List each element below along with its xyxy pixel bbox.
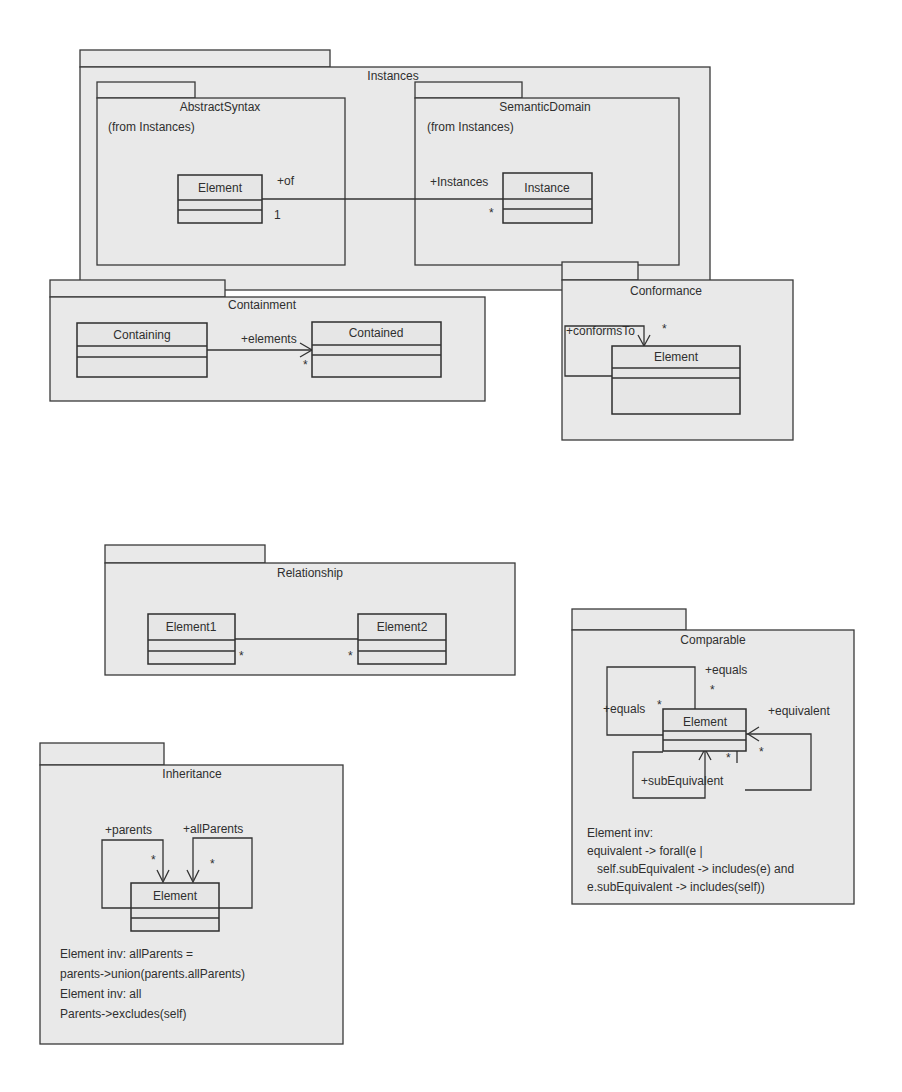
role-label: +allParents (183, 822, 243, 836)
multiplicity-label: * (348, 649, 353, 663)
class-name: Element (153, 889, 198, 903)
class-containing[interactable]: Containing (77, 323, 207, 377)
package-comparable[interactable]: Comparable +equals * +equals * +equivale… (572, 609, 854, 904)
class-name: Containing (113, 328, 170, 342)
role-label: +equivalent (768, 704, 830, 718)
package-title: Containment (228, 298, 297, 312)
class-name: Element (683, 715, 728, 729)
constraint-line: equivalent -> forall(e | (587, 844, 703, 858)
class-instance[interactable]: Instance (503, 173, 592, 223)
constraint-line: self.subEquivalent -> includes(e) and (587, 862, 794, 876)
multiplicity-label: * (489, 206, 494, 220)
package-tab (562, 262, 638, 280)
multiplicity-label: * (151, 853, 156, 867)
package-relationship[interactable]: Relationship Element1 * Element2 * (105, 545, 515, 675)
multiplicity-label: * (759, 745, 764, 759)
package-tab (572, 609, 686, 630)
package-tab (80, 50, 330, 67)
multiplicity-label: * (657, 698, 662, 712)
class-element[interactable]: Element (663, 709, 746, 751)
role-label: +elements (241, 332, 297, 346)
class-name: Element1 (166, 620, 217, 634)
package-title: Inheritance (162, 767, 222, 781)
class-element[interactable]: Element (178, 175, 262, 223)
package-tab (415, 82, 522, 98)
package-instances[interactable]: Instances AbstractSyntax (from Instances… (80, 50, 710, 290)
package-title: Comparable (680, 633, 746, 647)
class-name: Contained (349, 326, 404, 340)
package-title: AbstractSyntax (180, 100, 261, 114)
class-element[interactable]: Element (131, 883, 219, 931)
package-title: Conformance (630, 284, 702, 298)
multiplicity-label: * (210, 857, 215, 871)
multiplicity-label: * (726, 751, 731, 765)
role-label: +of (277, 174, 295, 188)
role-label: +conformsTo (566, 324, 635, 338)
package-inheritance[interactable]: Inheritance +parents * +allParents * Ele… (40, 743, 343, 1044)
package-title: SemanticDomain (499, 100, 590, 114)
role-label: +equals (705, 663, 747, 677)
class-name: Element (654, 350, 699, 364)
role-label: +subEquivalent (641, 774, 724, 788)
package-abstract-syntax[interactable]: AbstractSyntax (from Instances) (97, 82, 345, 265)
package-origin: (from Instances) (427, 120, 514, 134)
package-tab (105, 545, 265, 563)
constraint-line: Element inv: allParents = (60, 947, 193, 961)
class-element[interactable]: Element (612, 346, 740, 414)
constraint-line: Element inv: (587, 826, 653, 840)
class-contained[interactable]: Contained (312, 322, 441, 377)
multiplicity-label: * (303, 358, 308, 372)
package-title: Instances (367, 69, 418, 83)
package-containment[interactable]: Containment Containing +elements * Conta… (50, 280, 485, 401)
package-origin: (from Instances) (108, 120, 195, 134)
role-label: +equals (603, 702, 645, 716)
package-tab (50, 280, 225, 297)
constraint-line: parents->union(parents.allParents) (60, 967, 245, 981)
multiplicity-label: 1 (274, 208, 281, 222)
constraint-line: Element inv: all (60, 987, 141, 1001)
package-tab (97, 82, 195, 98)
uml-diagram-canvas: Instances AbstractSyntax (from Instances… (0, 0, 902, 1092)
class-name: Element (198, 181, 243, 195)
constraint-line: Parents->excludes(self) (60, 1007, 186, 1021)
class-element1[interactable]: Element1 (148, 614, 235, 664)
role-label: +parents (105, 823, 152, 837)
class-name: Instance (524, 181, 570, 195)
multiplicity-label: * (662, 322, 667, 336)
package-conformance[interactable]: Conformance +conformsTo * Element (562, 262, 793, 440)
package-tab (40, 743, 164, 765)
class-name: Element2 (377, 620, 428, 634)
package-title: Relationship (277, 566, 343, 580)
class-element2[interactable]: Element2 (358, 614, 446, 664)
role-label: +Instances (430, 175, 488, 189)
multiplicity-label: * (239, 649, 244, 663)
multiplicity-label: * (710, 683, 715, 697)
constraint-line: e.subEquivalent -> includes(self)) (587, 880, 765, 894)
